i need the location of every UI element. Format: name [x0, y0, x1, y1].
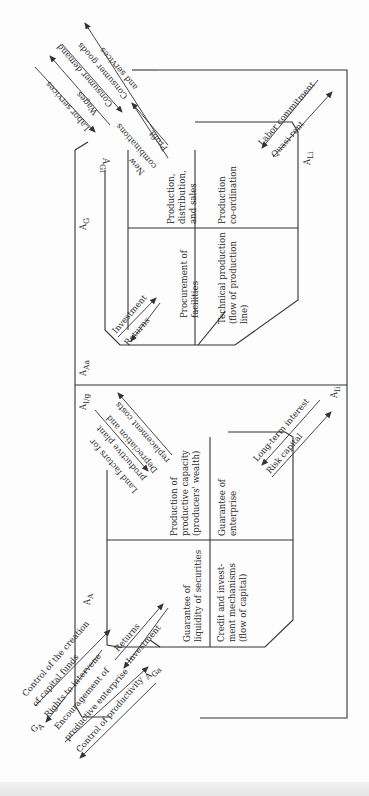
- svg-text:AG: AG: [78, 218, 91, 231]
- scanned-page: Procurement of facilities Production, di…: [0, 0, 369, 796]
- adapt-cell-productive-capacity: Production of productive capacity (produ…: [169, 450, 201, 536]
- goal-cell-coordination: Production co-ordination: [217, 166, 238, 224]
- svg-text:AGi: AGi: [98, 157, 111, 173]
- svg-text:liquidity of securities: liquidity of securities: [193, 550, 203, 642]
- svg-text:Credit and invest-: Credit and invest-: [216, 564, 226, 642]
- interchange-goal-right: Labor commitment Quasi-rent: [256, 79, 332, 159]
- label-A-Aa: AAa: [78, 359, 91, 377]
- label-A-Ig: AI/g: [78, 393, 91, 411]
- svg-text:Technical production: Technical production: [217, 232, 227, 324]
- svg-text:(flow of capital): (flow of capital): [238, 574, 248, 642]
- label-A-Ga: AGa: [142, 662, 164, 684]
- scan-edge: [0, 782, 369, 796]
- svg-text:co-ordination: co-ordination: [228, 166, 238, 224]
- svg-text:distribution,: distribution,: [177, 170, 187, 224]
- svg-text:line): line): [239, 305, 249, 324]
- svg-text:Procurement of: Procurement of: [179, 249, 189, 318]
- svg-text:ALi: ALi: [302, 151, 315, 166]
- label-A-Gi: AGi: [98, 157, 111, 173]
- label-G-A: GA: [28, 718, 46, 736]
- interchange-bottom-left: Control of the creation of capital funds…: [20, 618, 156, 758]
- outer-frame: [75, 70, 347, 718]
- label-A-A: AA: [82, 593, 95, 606]
- goal-cell-production-sales: Production, distribution, and sales: [166, 170, 198, 224]
- svg-text:AIi: AIi: [329, 386, 342, 399]
- svg-text:(flow of production: (flow of production: [228, 241, 238, 324]
- profit-label: Profit: [146, 128, 169, 153]
- svg-text:(producers' wealth): (producers' wealth): [191, 451, 201, 536]
- svg-text:Production of: Production of: [169, 476, 179, 536]
- goal-cell-procurement: Procurement of facilities: [179, 249, 200, 318]
- svg-text:facilities: facilities: [190, 281, 200, 318]
- interchange-goal-internal: Investment Returns: [110, 292, 160, 347]
- svg-text:AAa: AAa: [78, 359, 91, 377]
- adapt-cell-liquidity: Guarantee of liquidity of securities: [182, 550, 203, 642]
- interchange-adaptation-middle: Land factors for productive plant Deprec…: [87, 393, 172, 495]
- svg-text:Guarantee of: Guarantee of: [182, 584, 192, 642]
- svg-text:productive capacity: productive capacity: [180, 450, 190, 536]
- svg-text:GA: GA: [28, 718, 46, 736]
- svg-text:AI/g: AI/g: [78, 393, 91, 411]
- svg-text:and sales: and sales: [188, 183, 198, 224]
- svg-text:AA: AA: [82, 593, 95, 606]
- svg-text:Production,: Production,: [166, 173, 176, 224]
- adapt-cell-enterprise: Guarantee of enterprise: [217, 478, 238, 536]
- svg-text:enterprise: enterprise: [228, 491, 238, 536]
- svg-text:Guarantee of: Guarantee of: [217, 478, 227, 536]
- svg-text:ment mechanisms: ment mechanisms: [227, 563, 237, 642]
- goal-cell-technical-production: Technical production (flow of production…: [217, 232, 249, 324]
- svg-text:AGa: AGa: [142, 662, 164, 684]
- interchange-top-left: Labor services Wages Consumer demand Con…: [35, 23, 170, 177]
- label-A-G: AG: [78, 218, 91, 231]
- agil-interchange-diagram: Procurement of facilities Production, di…: [0, 0, 369, 796]
- svg-text:Production: Production: [217, 176, 227, 224]
- label-A-Li: ALi: [302, 151, 315, 166]
- label-A-Ii: AIi: [329, 386, 342, 399]
- interchange-adaptation-right: Long-term interest Risk capital: [251, 396, 331, 477]
- interchange-adaptation-internal: Returns Investment: [112, 604, 168, 668]
- adapt-cell-credit: Credit and invest- ment mechanisms (flow…: [216, 563, 248, 642]
